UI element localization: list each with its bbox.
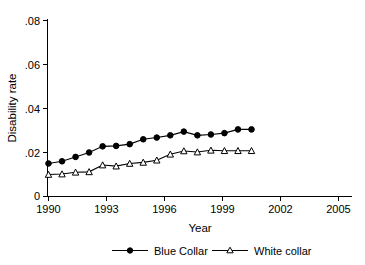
data-point-filled-circle <box>113 143 119 149</box>
data-point-filled-circle <box>127 141 133 147</box>
data-point-filled-circle <box>235 127 241 133</box>
y-tick-label-006: .06 <box>25 59 40 71</box>
y-tick-label-004: .04 <box>25 103 40 115</box>
series-line <box>49 129 252 163</box>
data-point-filled-circle <box>140 137 146 143</box>
y-tick-label-0: 0 <box>34 190 40 202</box>
legend-marker-blue-collar <box>127 248 132 253</box>
data-point-filled-circle <box>195 133 201 139</box>
y-tick-label-008: .08 <box>25 15 40 27</box>
x-tick-label-1996: 1996 <box>152 203 176 215</box>
y-tick-label-002: .02 <box>25 147 40 159</box>
chart-canvas: 0 .02 .04 .06 .08 1990 1993 1996 1999 20… <box>0 0 365 265</box>
data-point-filled-circle <box>86 150 92 156</box>
data-point-filled-circle <box>59 159 65 165</box>
data-point-filled-circle <box>181 129 187 135</box>
series-blue-collar <box>46 127 255 167</box>
legend-label-blue-collar: Blue Collar <box>154 245 208 257</box>
chart-legend: Blue Collar White collar <box>112 245 312 257</box>
legend-label-white-collar: White collar <box>254 245 312 257</box>
x-axis-ticks <box>49 197 339 202</box>
x-axis-title: Year <box>188 222 211 234</box>
series-layer <box>45 127 254 178</box>
x-tick-label-1999: 1999 <box>210 203 234 215</box>
x-tick-label-2002: 2002 <box>268 203 292 215</box>
x-tick-label-1993: 1993 <box>94 203 118 215</box>
x-tick-label-2005: 2005 <box>326 203 350 215</box>
data-point-filled-circle <box>222 130 228 136</box>
data-point-filled-circle <box>73 154 79 160</box>
y-axis-ticks <box>43 21 48 197</box>
data-point-filled-circle <box>168 133 174 139</box>
data-point-filled-circle <box>154 135 160 141</box>
data-point-filled-circle <box>100 144 106 150</box>
x-tick-label-1990: 1990 <box>36 203 60 215</box>
data-point-filled-circle <box>208 132 214 138</box>
data-point-filled-circle <box>46 161 52 167</box>
y-axis-title: Disability rate <box>6 73 18 142</box>
series-white-collar <box>45 147 254 177</box>
disability-rate-line-chart: 0 .02 .04 .06 .08 1990 1993 1996 1999 20… <box>0 0 365 265</box>
data-point-filled-circle <box>249 127 255 133</box>
